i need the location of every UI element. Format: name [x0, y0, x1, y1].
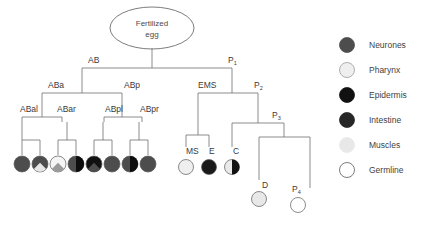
lineage-label-abp: ABp [124, 80, 140, 90]
lineage-label-p2: P2 [254, 80, 263, 91]
lineage-label-subscript: 2 [260, 85, 263, 91]
lineage-label-ms: MS [186, 146, 199, 156]
legend-label-germline: Germline [369, 165, 404, 175]
lineage-label-d: D [262, 180, 268, 190]
fertilized-egg-label-line1: Fertilized [136, 19, 168, 28]
cell-half-sector [130, 156, 138, 172]
legend-label-intestine: Intestine [369, 115, 401, 125]
cell-body [104, 156, 120, 172]
lineage-label-ems: EMS [198, 80, 217, 90]
lineage-label-p4: P4 [292, 184, 301, 195]
lineage-label-text: C [233, 146, 239, 156]
legend-label-epidermis: Epidermis [369, 90, 407, 100]
cell-body [252, 192, 267, 207]
legend-item-muscles: Muscles [340, 138, 401, 153]
cell-body [291, 198, 306, 213]
lineage-label-text: ABal [20, 104, 38, 114]
cell-body [14, 156, 30, 172]
legend-swatch-neurones [340, 38, 355, 53]
cell-abar-2 [68, 156, 84, 172]
cell-abal-2 [32, 156, 48, 172]
lineage-label-text: MS [186, 146, 199, 156]
lineage-label-text: ABar [57, 104, 76, 114]
lineage-label-subscript: 4 [298, 189, 301, 195]
legend-label-pharynx: Pharynx [369, 65, 401, 75]
lineage-label-text: E [209, 146, 215, 156]
cell-e [202, 160, 217, 175]
lineage-label-abpr: ABpr [140, 104, 159, 114]
lineage-label-c: C [233, 146, 239, 156]
lineage-label-text: EMS [198, 80, 217, 90]
cell-body [202, 160, 217, 175]
cell-abpr-2 [140, 156, 156, 172]
lineage-label-abal: ABal [20, 104, 38, 114]
legend-item-epidermis: Epidermis [340, 88, 407, 103]
cell-body [179, 160, 194, 175]
lineage-label-text: D [262, 180, 268, 190]
fertilized-egg-node: Fertilized egg [110, 7, 194, 49]
legend-swatch-pharynx [340, 63, 355, 78]
cell-body [140, 156, 156, 172]
lineage-label-text: ABp [124, 80, 140, 90]
lineage-label-e: E [209, 146, 215, 156]
lineage-label-text: ABpr [140, 104, 159, 114]
lineage-label-ab: AB [88, 55, 100, 65]
legend-item-pharynx: Pharynx [340, 63, 401, 78]
legend-item-neurones: Neurones [340, 38, 406, 53]
cell-p4 [291, 198, 306, 213]
legend-swatch-germline [340, 163, 355, 178]
cell-lineage-diagram: Fertilized egg ABP1ABaABpEMSP2ABalABarAB… [0, 0, 427, 225]
lineage-label-text: ABpl [105, 104, 123, 114]
lineage-label-p1: P1 [228, 55, 237, 66]
lineage-label-abar: ABar [57, 104, 76, 114]
lineage-label-p3: P3 [272, 110, 281, 121]
legend-swatch-muscles [340, 138, 355, 153]
cell-d [252, 192, 267, 207]
lineage-label-abpl: ABpl [105, 104, 123, 114]
cell-half-sector [232, 160, 240, 175]
cell-ms [179, 160, 194, 175]
legend-label-muscles: Muscles [369, 140, 400, 150]
cell-half-sector [76, 156, 84, 172]
fertilized-egg-label-line2: egg [145, 30, 158, 39]
lineage-label-text: ABa [48, 80, 64, 90]
legend-swatch-epidermis [340, 88, 355, 103]
cell-abar-1 [50, 156, 66, 172]
cell-abpl-1 [86, 156, 102, 172]
legend-swatch-intestine [340, 113, 355, 128]
legend-label-neurones: Neurones [369, 40, 406, 50]
cell-fate-legend: NeuronesPharynxEpidermisIntestineMuscles… [340, 38, 407, 178]
lineage-diagram-canvas: Fertilized egg ABP1ABaABpEMSP2ABalABarAB… [0, 0, 427, 225]
lineage-label-subscript: 3 [278, 115, 281, 121]
legend-item-germline: Germline [340, 163, 404, 178]
lineage-label-subscript: 1 [234, 60, 237, 66]
cell-c [225, 160, 240, 175]
cell-abpl-2 [104, 156, 120, 172]
lineage-label-aba: ABa [48, 80, 64, 90]
cell-abal-1 [14, 156, 30, 172]
cell-abpr-1 [122, 156, 138, 172]
lineage-label-text: AB [88, 55, 100, 65]
legend-item-intestine: Intestine [340, 113, 402, 128]
